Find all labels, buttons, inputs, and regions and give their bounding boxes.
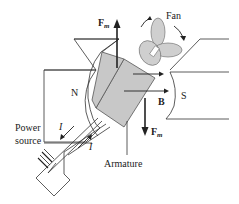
current-label-1: I xyxy=(58,121,63,132)
fan-rotation-arrowhead-left xyxy=(147,16,152,20)
force-top-label: Fm xyxy=(98,17,110,30)
fan-label: Fan xyxy=(166,10,181,21)
force-arrow-bottom-head xyxy=(142,127,149,136)
power-source-label-line2: source xyxy=(15,135,42,146)
field-arrowhead-1 xyxy=(159,72,164,77)
south-pole-face xyxy=(166,72,175,119)
field-label: B xyxy=(158,96,165,107)
field-arrowhead-2 xyxy=(164,89,169,94)
north-pole-label: N xyxy=(71,87,78,98)
south-pole-label: S xyxy=(181,90,187,101)
fan-rotation-arrowhead-right xyxy=(180,36,186,41)
armature-label: Armature xyxy=(104,158,143,169)
force-bottom-label: Fm xyxy=(151,126,163,139)
current-label-2: I xyxy=(88,141,93,152)
battery-icon xyxy=(38,149,54,168)
power-source-circuit xyxy=(36,149,70,196)
fan-blade-top xyxy=(151,18,165,46)
power-source-label-line1: Power xyxy=(15,122,41,133)
fan-rotation-arrow-right xyxy=(174,26,183,37)
force-arrow-top-head xyxy=(114,19,121,28)
dc-motor-diagram: Fm Fm B N S Fan I I Power source xyxy=(0,0,239,204)
circuit-wire xyxy=(36,152,70,196)
force-arrow-bottom xyxy=(142,98,149,136)
